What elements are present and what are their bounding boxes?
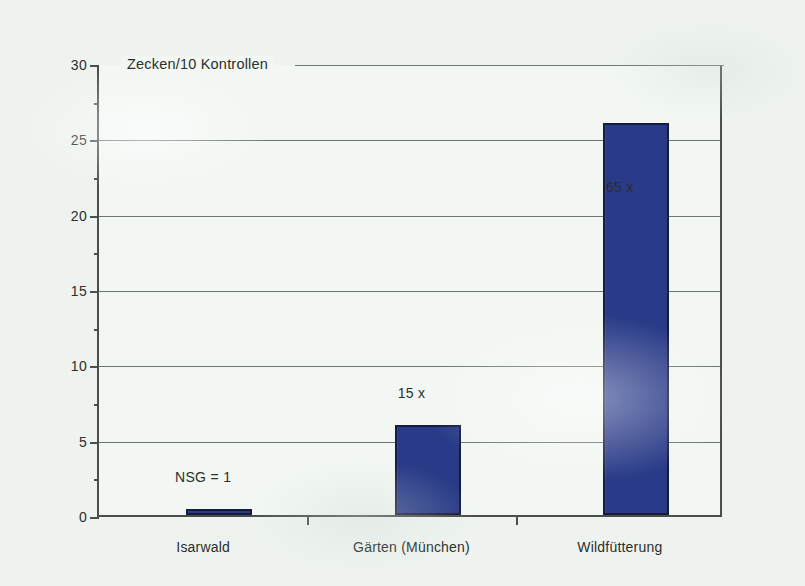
ytick-mark-30 (90, 65, 99, 67)
ytick-label-30: 30 (71, 57, 87, 73)
ytick-mark-15 (90, 291, 99, 293)
ytick-minor-2-5 (94, 479, 99, 481)
ytick-label-25: 25 (71, 132, 87, 148)
xtick-label-isarwald: Isarwald (176, 539, 230, 555)
ytick-mark-10 (90, 366, 99, 368)
ytick-minor-27-5 (94, 103, 99, 105)
ytick-label-15: 15 (71, 283, 87, 299)
plot-area: Zecken/10 Kontrollen 30 25 20 15 10 5 0 … (97, 65, 722, 517)
bar-chart-figure: Zecken/10 Kontrollen 30 25 20 15 10 5 0 … (0, 0, 805, 586)
ytick-minor-17-5 (94, 253, 99, 255)
xtick-boundary-2 (516, 515, 518, 525)
ytick-minor-12-5 (94, 329, 99, 331)
bar-annotation-isarwald: NSG = 1 (175, 469, 231, 485)
ytick-label-10: 10 (71, 358, 87, 374)
xtick-label-gaerten-muenchen: Gärten (München) (353, 539, 470, 555)
xtick-label-wildfuetterung: Wildfütterung (577, 539, 662, 555)
bar-isarwald (186, 509, 252, 515)
axis-title: Zecken/10 Kontrollen (121, 56, 274, 72)
ytick-minor-7-5 (94, 404, 99, 406)
bar-annotation-gaerten-muenchen: 15 x (398, 385, 426, 401)
xtick-boundary-1 (307, 515, 309, 525)
gridline-30 (295, 65, 724, 66)
ytick-mark-0 (90, 517, 99, 519)
ytick-mark-25 (90, 140, 99, 142)
ytick-mark-20 (90, 216, 99, 218)
ytick-label-0: 0 (79, 509, 87, 525)
ytick-label-20: 20 (71, 208, 87, 224)
ytick-minor-22-5 (94, 178, 99, 180)
bar-annotation-wildfuetterung: 65 x (606, 179, 634, 195)
bar-gaerten-muenchen (395, 425, 461, 515)
ytick-label-5: 5 (79, 434, 87, 450)
ytick-mark-5 (90, 442, 99, 444)
